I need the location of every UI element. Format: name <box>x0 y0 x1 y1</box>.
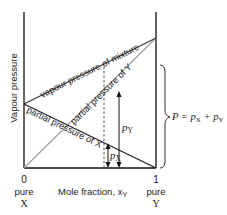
label-partial-pressure-x: partial pressure of X <box>25 105 103 150</box>
x-tick-left-value: 0 <box>21 174 27 185</box>
y-axis-label: Vapour pressure <box>8 53 19 123</box>
py-label: pY <box>121 121 134 135</box>
x-tick-right-value: 1 <box>153 174 159 185</box>
x-tick-right-component: Y <box>152 198 159 209</box>
x-tick-left-pure: pure <box>14 186 33 197</box>
x-tick-right-pure: pure <box>146 186 165 197</box>
x-axis-label: Mole fraction, xY <box>58 186 127 198</box>
total-pressure-brace <box>160 65 170 168</box>
total-pressure-equation: P = pX + pY <box>171 111 224 124</box>
vapour-pressure-diagram: vapour pressure of mixture partial press… <box>0 0 227 215</box>
px-label: pX <box>109 149 122 163</box>
x-tick-left-component: X <box>20 198 28 209</box>
